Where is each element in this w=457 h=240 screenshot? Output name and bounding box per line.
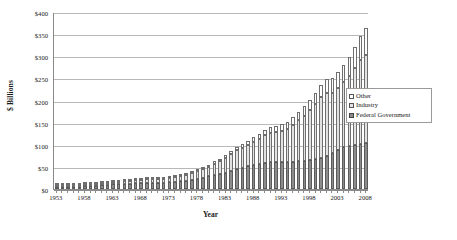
x-tick [67, 190, 68, 193]
bar-group [184, 173, 188, 189]
bar-segment [201, 169, 205, 177]
bar-segment [196, 179, 200, 189]
x-tick [180, 190, 181, 193]
bar-segment [319, 85, 323, 97]
bar-segment [106, 185, 110, 189]
bar-segment [252, 142, 256, 165]
bar-group [196, 169, 200, 189]
bar-segment [156, 183, 160, 189]
x-tick-label: 1968 [134, 194, 147, 201]
x-tick-label: 1973 [162, 194, 175, 201]
y-tick-label: $150 [35, 120, 48, 127]
chart-legend: OtherIndustryFederal Government [346, 88, 432, 123]
bar-segment [280, 124, 284, 131]
bar-segment [235, 169, 239, 189]
bar-group [128, 179, 132, 189]
bar-group [280, 124, 284, 189]
bar-segment [314, 159, 318, 189]
bar-segment [252, 165, 256, 189]
x-tick-label: 1988 [246, 194, 259, 201]
x-tick [106, 190, 107, 193]
bar-group [151, 177, 155, 189]
bar-segment [190, 180, 194, 189]
bar-segment [353, 47, 357, 68]
x-tick [303, 190, 304, 193]
bar-segment [207, 176, 211, 189]
bar-segment [241, 168, 245, 189]
bar-segment [269, 162, 273, 189]
x-tick [123, 190, 124, 193]
bar-segment [286, 129, 290, 162]
bar-segment [331, 153, 335, 189]
bar-group [190, 171, 194, 189]
bar-segment [353, 145, 357, 189]
bar-segment [291, 117, 295, 125]
bar-segment [224, 173, 228, 189]
x-tick [135, 190, 136, 193]
bar-group [246, 141, 250, 189]
x-tick [264, 190, 265, 193]
bar-segment [83, 186, 87, 189]
bar-group [201, 167, 205, 189]
bar-group [83, 182, 87, 189]
bar-segment [314, 93, 318, 104]
x-tick [84, 190, 85, 193]
bar-segment [151, 183, 155, 189]
bar-group [241, 144, 245, 189]
bar-segment [286, 122, 290, 129]
bar-segment [173, 182, 177, 189]
bar-group [106, 181, 110, 189]
bar-group [94, 182, 98, 189]
bar-group [179, 174, 183, 189]
bar-group [336, 72, 340, 189]
x-tick [118, 190, 119, 193]
bar-group [263, 130, 267, 189]
bar-segment [246, 145, 250, 166]
bar-segment [319, 158, 323, 189]
bar-group [207, 165, 211, 189]
x-tick [247, 190, 248, 193]
bar-group [252, 137, 256, 189]
y-tick-label: $100 [35, 142, 48, 149]
bar-segment [78, 187, 82, 189]
bar-segment [348, 146, 352, 189]
x-tick [225, 190, 226, 193]
bar-segment [342, 65, 346, 82]
bar-segment [139, 183, 143, 189]
bar-group [291, 117, 295, 189]
bar-segment [297, 112, 301, 120]
bar-segment [314, 104, 318, 159]
bar-segment [168, 182, 172, 189]
bar-segment [218, 174, 222, 189]
stacked-bar-chart: $ Billions $0$50$100$150$200$250$300$350… [0, 0, 457, 240]
bar-segment [319, 97, 323, 158]
x-tick-label: 2008 [359, 194, 372, 201]
bar-segment [229, 154, 233, 171]
bar-segment [297, 120, 301, 161]
bar-segment [274, 132, 278, 162]
bar-group [314, 93, 318, 189]
x-tick-label: 1963 [105, 194, 118, 201]
x-tick [191, 190, 192, 193]
bar-segment [303, 161, 307, 189]
bar-segment [308, 110, 312, 160]
x-tick [258, 190, 259, 193]
bar-segment [263, 135, 267, 162]
bar-segment [258, 164, 262, 189]
x-tick-label: 1998 [302, 194, 315, 201]
y-axis-title: $ Billions [0, 0, 20, 190]
x-tick [157, 190, 158, 193]
x-tick [281, 190, 282, 193]
x-tick [146, 190, 147, 193]
bar-segment [241, 148, 245, 168]
bar-segment [359, 144, 363, 189]
x-tick [95, 190, 96, 193]
bar-segment [258, 139, 262, 164]
y-axis-tick-labels: $0$50$100$150$200$250$300$350$400 [18, 13, 51, 190]
x-tick [320, 190, 321, 193]
bar-group [173, 175, 177, 189]
bar-segment [342, 147, 346, 189]
y-tick-label: $300 [35, 54, 48, 61]
legend-swatch-federal [349, 113, 354, 118]
bar-group [235, 147, 239, 189]
